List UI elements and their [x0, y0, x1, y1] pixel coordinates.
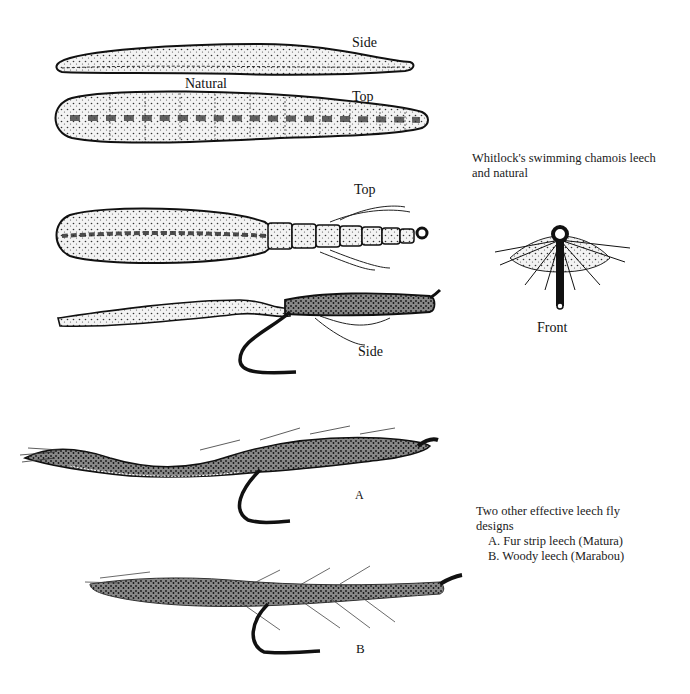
natural-side-label: Side	[352, 35, 377, 51]
fur-strip-leech-illustration	[20, 426, 438, 522]
figure-1-caption-line-2: and natural	[472, 166, 656, 181]
fly-side-label: Side	[358, 344, 383, 360]
figure-2-caption-line-1: Two other effective leech fly	[476, 504, 624, 519]
figure-2-caption-item-a: A. Fur strip leech (Matura)	[476, 534, 624, 549]
chamois-leech-side-illustration	[58, 290, 440, 373]
figure-1-caption-line-1: Whitlock's swimming chamois leech	[472, 151, 656, 166]
figure-1-caption: Whitlock's swimming chamois leech and na…	[472, 151, 656, 181]
figure-2-caption-line-2: designs	[476, 519, 624, 534]
chamois-leech-front-illustration	[495, 227, 630, 309]
chamois-leech-top-illustration	[57, 206, 428, 270]
natural-top-label: Top	[352, 89, 374, 105]
fly-b-letter-label: B	[356, 641, 365, 657]
natural-group-label: Natural	[185, 76, 227, 92]
figure-2-caption: Two other effective leech fly designs A.…	[476, 504, 624, 564]
fly-top-label: Top	[354, 182, 376, 198]
fly-front-label: Front	[537, 320, 567, 336]
figure-2-caption-item-b: B. Woody leech (Marabou)	[476, 549, 624, 564]
woody-leech-illustration	[85, 566, 462, 653]
fly-a-letter-label: A	[355, 487, 364, 503]
